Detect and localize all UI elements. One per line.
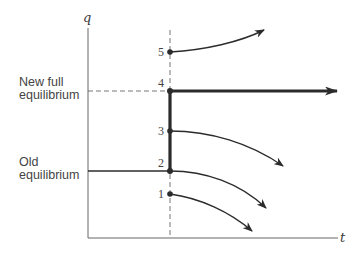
trajectory-3 (170, 131, 283, 166)
point-label-1: 1 (158, 187, 164, 201)
point-label-5: 5 (158, 45, 164, 59)
point-5 (167, 49, 173, 55)
point-label-4: 4 (158, 76, 164, 90)
point-2 (167, 168, 173, 174)
trajectory-1 (170, 194, 252, 231)
point-label-2: 2 (158, 156, 164, 170)
point-label-3: 3 (158, 124, 164, 138)
old-equilibrium-label-line2: equilibrium (19, 168, 79, 182)
new-equilibrium-label-line2: equilibrium (19, 88, 79, 102)
trajectory-5 (170, 30, 264, 52)
new-equilibrium-label-line1: New full (19, 75, 63, 89)
point-4 (167, 88, 173, 94)
trajectory-2 (170, 171, 266, 208)
point-1 (167, 191, 173, 197)
point-3 (167, 128, 173, 134)
y-axis-label: q (83, 10, 91, 25)
adjustment-diagram: q t 5 4 3 2 1 New full equilibrium Old e… (0, 0, 362, 257)
x-axis-label: t (340, 230, 346, 245)
old-equilibrium-label-line1: Old (19, 155, 39, 169)
